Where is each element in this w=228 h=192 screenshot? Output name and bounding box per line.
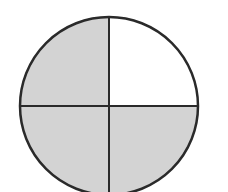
quadrant-bottom-left: [20, 106, 109, 192]
fraction-circle: [0, 0, 228, 192]
quadrant-bottom-right: [109, 106, 198, 192]
diagram-canvas: [0, 0, 228, 192]
